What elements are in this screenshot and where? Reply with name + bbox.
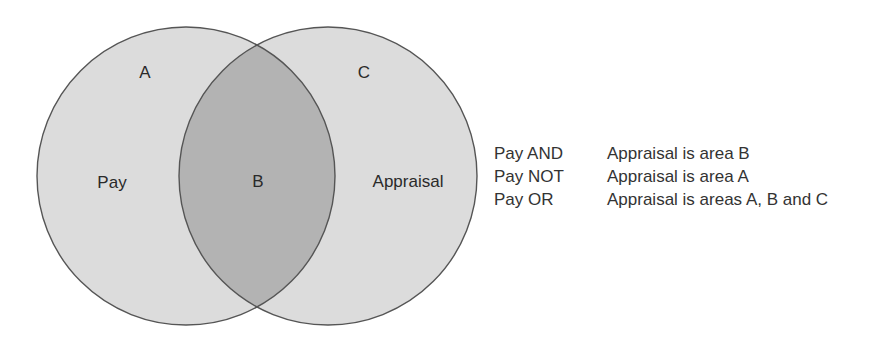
region-label-c: C bbox=[358, 63, 370, 82]
legend-description: Appraisal is area A bbox=[607, 165, 749, 188]
set-label-appraisal: Appraisal bbox=[373, 172, 444, 191]
region-label-b: B bbox=[252, 172, 263, 191]
legend-operator: Pay AND bbox=[494, 142, 607, 165]
legend: Pay AND Appraisal is area B Pay NOT Appr… bbox=[494, 142, 828, 211]
venn-diagram: A C Pay B Appraisal bbox=[0, 0, 500, 341]
set-label-pay: Pay bbox=[97, 173, 127, 192]
legend-description: Appraisal is areas A, B and C bbox=[607, 188, 828, 211]
legend-row-or: Pay OR Appraisal is areas A, B and C bbox=[494, 188, 828, 211]
legend-description: Appraisal is area B bbox=[607, 142, 750, 165]
legend-row-not: Pay NOT Appraisal is area A bbox=[494, 165, 828, 188]
legend-operator: Pay OR bbox=[494, 188, 607, 211]
legend-row-and: Pay AND Appraisal is area B bbox=[494, 142, 828, 165]
region-label-a: A bbox=[139, 63, 151, 82]
legend-operator: Pay NOT bbox=[494, 165, 607, 188]
